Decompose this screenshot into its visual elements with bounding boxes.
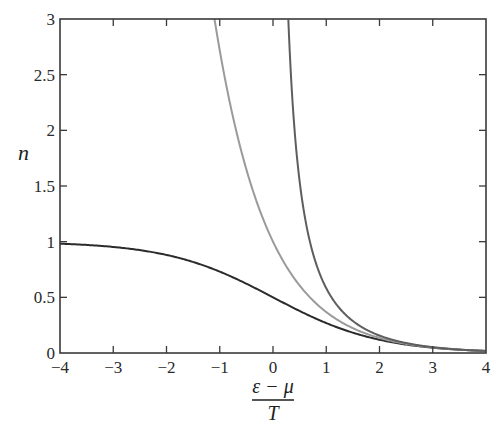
x-axis-label-numerator: ε − μ: [252, 375, 293, 398]
y-tick-label: 3: [47, 10, 56, 29]
distribution-chart: −4−3−2−101234 00.511.522.53 n ε − μ T: [0, 0, 504, 425]
y-axis-ticks: 00.511.522.53: [34, 10, 486, 363]
y-tick-label: 1.5: [34, 177, 55, 196]
y-tick-label: 2: [47, 121, 56, 140]
plot-frame: [60, 19, 486, 353]
plot-curves: [60, 19, 486, 351]
bose-einstein-curve: [288, 19, 486, 351]
x-tick-label: −2: [157, 358, 175, 377]
x-tick-label: 2: [375, 358, 384, 377]
boltzmann-curve: [214, 19, 486, 351]
y-tick-label: 1: [47, 233, 56, 252]
y-axis-label: n: [18, 140, 29, 165]
x-tick-label: 4: [482, 358, 491, 377]
x-axis-label-denominator: T: [267, 402, 280, 424]
x-axis-ticks: −4−3−2−101234: [51, 19, 491, 377]
y-tick-label: 0: [47, 344, 56, 363]
x-tick-label: −3: [104, 358, 122, 377]
x-tick-label: 1: [322, 358, 331, 377]
y-tick-label: 2.5: [34, 66, 55, 85]
fermi-dirac-curve: [60, 244, 486, 351]
x-tick-label: −1: [211, 358, 229, 377]
x-tick-label: 3: [429, 358, 438, 377]
y-tick-label: 0.5: [34, 288, 55, 307]
